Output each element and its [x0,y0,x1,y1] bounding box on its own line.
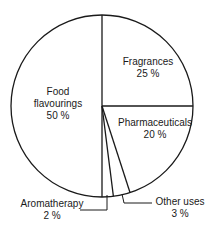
label-pharmaceuticals-pct: 20 % [112,129,198,141]
label-aromatherapy-pct: 2 % [20,210,84,222]
label-other-pct: 3 % [152,208,208,220]
label-fragrances-pct: 25 % [118,68,178,80]
label-aromatherapy-name: Aromatherapy [20,198,84,210]
label-fragrances: Fragrances 25 % [118,56,178,80]
label-food-name-line1: Food [30,86,86,98]
label-aromatherapy: Aromatherapy 2 % [20,198,84,222]
label-food-name-line2: flavourings [30,98,86,110]
label-food-pct: 50 % [30,110,86,122]
leader-other-uses [122,194,152,203]
label-fragrances-name: Fragrances [118,56,178,68]
label-pharmaceuticals: Pharmaceuticals 20 % [112,117,198,141]
label-pharmaceuticals-name: Pharmaceuticals [112,117,198,129]
label-other-uses: Other uses 3 % [152,196,208,220]
label-other-name: Other uses [152,196,208,208]
label-food-flavourings: Food flavourings 50 % [30,86,86,122]
